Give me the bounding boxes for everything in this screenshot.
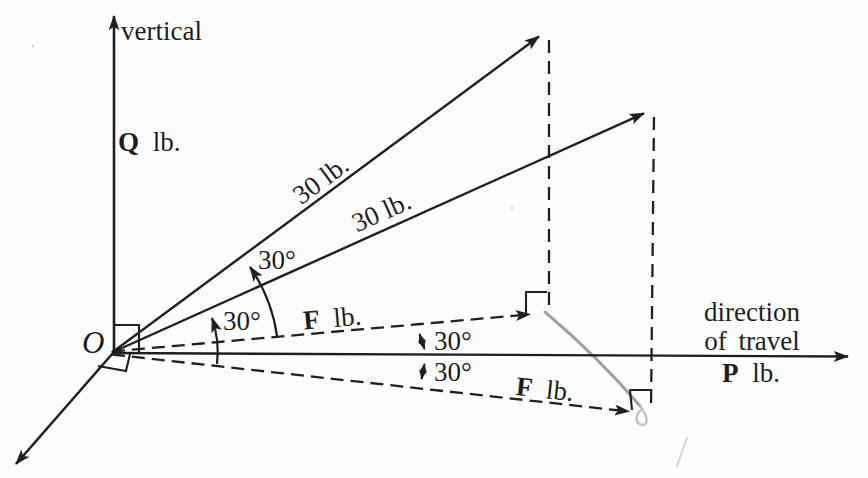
origin-label: O <box>82 325 104 360</box>
p-force-label: P lb. <box>722 358 780 388</box>
direction-of-travel-label-line1: direction <box>704 297 800 327</box>
right-angle-mark-projection-1 <box>526 292 547 313</box>
angle-label-rope2: 30° <box>223 306 261 336</box>
angle-label-rope1: 30° <box>258 245 296 275</box>
angle-arrow-lower <box>422 364 425 379</box>
q-force-label: Q lb. <box>118 127 181 157</box>
direction-of-travel-label-line2: of travel <box>704 326 800 356</box>
f-lower-label: F lb. <box>515 371 576 407</box>
vertical-axis-label: vertical <box>121 16 202 46</box>
lateral-axis-line <box>16 353 113 464</box>
vertical-drop-dashed-2 <box>651 117 654 410</box>
f-lower-unit: lb. <box>545 374 576 407</box>
pencil-curl <box>637 406 647 425</box>
scan-speck <box>32 45 35 48</box>
angle-arc-rope2 <box>212 318 218 364</box>
f-upper-unit: lb. <box>332 301 362 333</box>
p-force-symbol: P <box>722 358 739 388</box>
f-lower-symbol: F <box>515 371 535 403</box>
q-force-symbol: Q <box>118 127 139 157</box>
q-force-unit: lb. <box>153 127 181 157</box>
force-diagram: vertical Q lb. O 30 lb. 30 lb. 30° 30° 3… <box>0 0 868 478</box>
p-force-unit: lb. <box>752 358 780 388</box>
angle-arrow-upper <box>420 334 425 349</box>
f-upper-symbol: F <box>302 304 321 335</box>
rope1-magnitude-label: 30 lb. <box>287 149 354 210</box>
scan-speck <box>511 207 514 210</box>
f-upper-label: F lb. <box>302 301 362 336</box>
figure-canvas: vertical Q lb. O 30 lb. 30 lb. 30° 30° 3… <box>0 0 868 478</box>
force-30lb-lower-vector <box>112 113 644 352</box>
angle-label-lower-projection: 30° <box>434 357 472 387</box>
angle-label-upper-projection: 30° <box>434 326 472 356</box>
pencil-scratch <box>677 438 687 466</box>
